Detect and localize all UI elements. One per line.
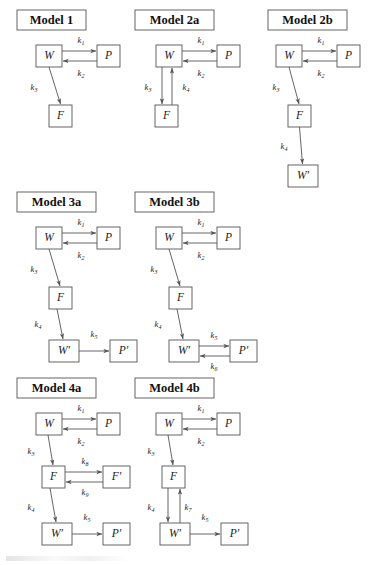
model-1: Model 1 W P F k1 k2 k3 [17, 10, 120, 127]
model-3b-node-p-label: P [224, 231, 232, 243]
model-3b-rate-k2: k2 [198, 250, 205, 261]
model-2b: Model 2b W P F W′ k1 k2 k3 k4 [268, 10, 360, 187]
model-1-title: Model 1 [30, 13, 73, 27]
model-4a-edge-w-to-f [48, 435, 53, 465]
model-2a-node-f-label: F [162, 109, 171, 121]
model-2b-rate-k2: k2 [318, 68, 325, 79]
model-2b-edge-w-to-f [289, 67, 299, 104]
model-4a-rate-k2: k2 [78, 436, 85, 447]
model-3a-rate-k5: k5 [91, 329, 98, 340]
model-3a-node-w-label: W [44, 231, 55, 243]
model-4b-rate-k4: k4 [148, 502, 155, 513]
model-3b-node-pprime-label: P′ [238, 344, 249, 356]
model-1-rate-k3: k3 [31, 82, 38, 93]
model-4b-node-pprime-label: P′ [229, 527, 240, 539]
model-4a-rate-k8: k8 [82, 456, 89, 467]
models-figure: Model 1 W P F k1 k2 k3 Model 2a W P F [0, 0, 371, 565]
model-4b-node-wprime-label: W′ [169, 527, 182, 539]
model-2a-rate-k1: k1 [198, 35, 205, 46]
page-bottom-artifact [6, 556, 126, 561]
model-4a-title: Model 4a [32, 381, 82, 395]
model-4a-node-p-label: P [104, 417, 112, 429]
model-3a-rate-k4: k4 [35, 319, 42, 330]
model-4b-node-w-label: W [164, 417, 175, 429]
model-2a: Model 2a W P F k1 k2 k3 k4 [135, 10, 240, 127]
model-4a-rate-k4: k4 [28, 502, 35, 513]
model-4b-rate-k5: k5 [202, 512, 209, 523]
model-1-node-p-label: P [104, 49, 112, 61]
model-2b-rate-k3: k3 [273, 82, 280, 93]
model-3a-edge-w-to-f [49, 249, 60, 286]
model-3a-node-wprime-label: W′ [58, 344, 71, 356]
model-3b-rate-k1: k1 [198, 217, 205, 228]
model-3a-rate-k2: k2 [78, 250, 85, 261]
model-3b-rate-k6: k6 [211, 361, 218, 372]
model-3a-rate-k3: k3 [31, 264, 38, 275]
model-4a-rate-k1: k1 [78, 403, 85, 414]
model-3b-node-w-label: W [164, 231, 175, 243]
model-2b-node-wprime-label: W′ [297, 169, 310, 181]
model-2b-rate-k1: k1 [318, 35, 325, 46]
model-2a-node-w-label: W [164, 49, 175, 61]
model-3b: Model 3b W P F W′ P′ k1 k2 k3 k4 k5 [135, 192, 257, 372]
model-4a-node-fprime-label: F′ [111, 470, 122, 482]
model-3a-node-p-label: P [104, 231, 112, 243]
model-2a-rate-k4: k4 [183, 82, 190, 93]
model-4b-rate-k7: k7 [185, 502, 193, 513]
model-2b-edge-f-to-wprime [300, 127, 303, 164]
model-3a-rate-k1: k1 [78, 217, 85, 228]
model-2b-node-f-label: F [295, 109, 304, 121]
model-3b-edge-w-to-f [169, 249, 180, 286]
model-1-rate-k1: k1 [78, 35, 85, 46]
model-2a-rate-k2: k2 [198, 68, 205, 79]
model-2b-node-p-label: P [344, 49, 352, 61]
model-2b-title: Model 2b [282, 13, 332, 27]
model-4b-rate-k2: k2 [198, 436, 205, 447]
model-4a-node-f-label: F [49, 470, 58, 482]
model-4b-title: Model 4b [149, 381, 199, 395]
model-1-rate-k2: k2 [78, 68, 85, 79]
model-4a-node-wprime-label: W′ [51, 527, 64, 539]
model-1-edge-w-to-f [49, 67, 61, 104]
model-3b-node-f-label: F [176, 291, 185, 303]
model-4a-node-pprime-label: P′ [111, 527, 122, 539]
model-3a: Model 3a W P F W′ P′ k1 k2 k3 k4 k5 [17, 192, 137, 362]
model-2a-rate-k3: k3 [145, 82, 152, 93]
model-3a-node-f-label: F [56, 291, 65, 303]
model-4b-node-p-label: P [224, 417, 232, 429]
model-3b-rate-k5: k5 [211, 330, 218, 341]
model-4b: Model 4b W P F W′ P′ k1 k2 k3 k4 k7 [135, 378, 248, 545]
model-4b-node-f-label: F [169, 470, 178, 482]
model-2a-node-p-label: P [224, 49, 232, 61]
model-4a-rate-k9: k9 [82, 487, 89, 498]
model-1-node-f-label: F [56, 109, 65, 121]
model-3b-edge-f-to-wprime [177, 309, 183, 339]
model-4a-rate-k5: k5 [84, 512, 91, 523]
model-3a-edge-f-to-wprime [57, 309, 63, 339]
model-3b-title: Model 3b [149, 195, 199, 209]
model-3a-title: Model 3a [32, 195, 82, 209]
model-2b-node-w-label: W [284, 49, 295, 61]
model-3a-node-pprime-label: P′ [118, 344, 129, 356]
model-4a: Model 4a W P F F′ W′ P′ k1 k2 k3 k8 [17, 378, 130, 545]
model-2a-title: Model 2a [150, 13, 200, 27]
model-4a-edge-f-to-wprime [50, 488, 56, 522]
model-4a-rate-k3: k3 [28, 446, 35, 457]
model-3b-rate-k4: k4 [155, 319, 162, 330]
model-1-node-w-label: W [44, 49, 55, 61]
model-4b-rate-k3: k3 [148, 446, 155, 457]
model-2b-rate-k4: k4 [281, 141, 288, 152]
model-3b-node-wprime-label: W′ [178, 344, 191, 356]
model-4b-rate-k1: k1 [198, 403, 205, 414]
model-3b-rate-k3: k3 [151, 264, 158, 275]
model-4a-node-w-label: W [44, 417, 55, 429]
model-4b-edge-w-to-f [168, 435, 173, 465]
